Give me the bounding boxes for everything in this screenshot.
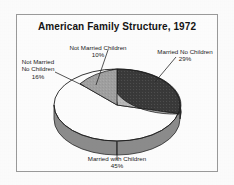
pie-label-not-married-no-children-pct: 16%: [14, 73, 62, 80]
pie-label-married-with-children-pct: 45%: [60, 162, 174, 169]
pie-label-not-married-children-text: Not Married Children: [69, 44, 126, 51]
pie-label-not-married-children: Not Married Children 10%: [56, 44, 140, 59]
pie-label-married-no-children-pct: 29%: [146, 55, 224, 62]
pie-label-married-no-children-text: Married No Children: [157, 48, 212, 55]
pie-slice-married-no-children-texture: [117, 69, 181, 114]
pie-label-married-with-children: Married with Children 45%: [60, 155, 174, 170]
pie-label-not-married-no-children: Not Married No Children 16%: [14, 58, 62, 80]
pie-chart: [16, 14, 218, 172]
pie-label-married-no-children: Married No Children 29%: [146, 48, 224, 63]
pie-top-face: [80, 69, 181, 114]
pie-label-not-married-children-pct: 10%: [56, 51, 140, 58]
page-canvas: American Family Structure, 1972: [0, 0, 234, 185]
pie-label-not-married-no-children-text1: Not Married: [22, 58, 54, 65]
pie-wall-married-with-children: [54, 105, 117, 155]
pie-label-married-with-children-text: Married with Children: [88, 155, 146, 162]
pie-label-not-married-no-children-text2: No Children: [14, 65, 62, 72]
